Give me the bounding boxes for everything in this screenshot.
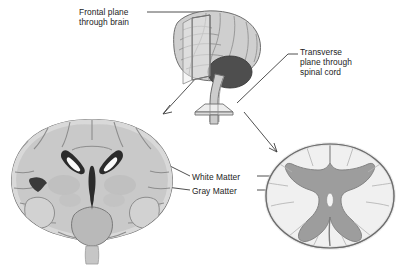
coronal-cord-stub xyxy=(85,246,99,264)
spinal-cord-cross-section xyxy=(266,144,394,248)
label-white-matter: White Matter xyxy=(192,172,240,182)
label-transverse-plane: Transverse plane through spinal cord xyxy=(300,47,352,78)
spinal-cord-below-disc xyxy=(210,115,218,124)
label-gray-matter: Gray Matter xyxy=(192,186,237,196)
figure-canvas: Frontal plane through brain Transverse p… xyxy=(0,0,403,269)
anterior-median-fissure xyxy=(329,217,330,246)
frontal-plane-sheet xyxy=(183,15,210,84)
coronal-brainstem xyxy=(72,207,113,246)
central-canal xyxy=(327,193,334,207)
anatomy-illustration xyxy=(0,0,403,269)
label-frontal-plane: Frontal plane through brain xyxy=(79,7,129,27)
